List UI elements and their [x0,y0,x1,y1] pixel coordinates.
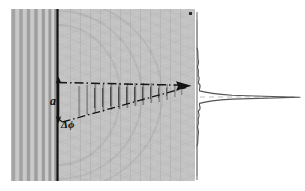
phase-difference-label: Δϕ [60,118,75,130]
corner-dot-marker [189,12,192,15]
figure-canvas: a Δϕ [0,0,305,191]
amplitude-label: a [50,94,56,108]
simulation-field [0,0,195,191]
intensity-profile-plot [197,12,300,180]
diffraction-figure: a Δϕ [0,0,305,191]
